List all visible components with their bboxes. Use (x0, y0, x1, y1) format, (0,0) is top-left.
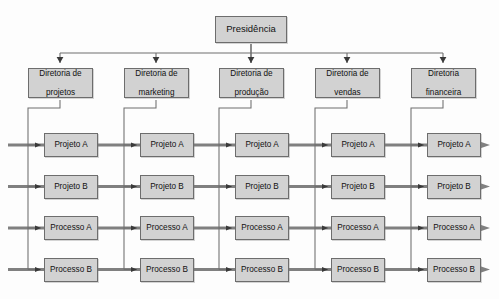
cell-label: Projeto B (52, 182, 90, 191)
cell-label: Processo A (144, 223, 189, 232)
node-diretoria-projetos[interactable]: Diretoria de projetos (28, 68, 93, 98)
cell-processo-b-col5[interactable]: Processo B (427, 258, 481, 282)
cell-label: Processo B (431, 265, 477, 274)
node-diretoria-producao[interactable]: Diretoria de produção (219, 68, 284, 98)
cell-label: Projeto B (435, 182, 473, 191)
line1: Diretoria de (133, 69, 179, 78)
cell-label: Processo B (335, 265, 381, 274)
line1: Diretoria de (228, 69, 274, 78)
cell-projeto-a-col2[interactable]: Projeto A (140, 133, 194, 157)
cell-projeto-a-col1[interactable]: Projeto A (44, 133, 98, 157)
cell-processo-a-col2[interactable]: Processo A (140, 216, 194, 240)
cell-processo-b-col2[interactable]: Processo B (140, 258, 194, 282)
process-flow-lines (8, 145, 470, 270)
cell-label: Processo A (239, 223, 284, 232)
flow-exit-arrowheads (468, 138, 490, 278)
cell-label: Projeto B (148, 182, 186, 191)
line2: projetos (37, 88, 83, 97)
cell-label: Processo B (239, 265, 285, 274)
line2: produção (228, 88, 274, 97)
node-diretoria-producao-label: Diretoria de produção (226, 69, 276, 97)
node-diretoria-marketing[interactable]: Diretoria de marketing (124, 68, 189, 98)
cell-processo-b-col1[interactable]: Processo B (44, 258, 98, 282)
cell-processo-a-col3[interactable]: Processo A (235, 216, 289, 240)
cell-projeto-a-col4[interactable]: Projeto A (331, 133, 385, 157)
bus-to-directorate-drops (60, 53, 443, 63)
node-diretoria-financeira[interactable]: Diretoria financeira (411, 68, 476, 98)
node-diretoria-projetos-label: Diretoria de projetos (35, 69, 85, 97)
node-presidencia[interactable]: Presidência (215, 16, 287, 43)
cell-label: Projeto A (339, 140, 376, 149)
cell-projeto-b-col4[interactable]: Projeto B (331, 175, 385, 199)
cell-label: Projeto A (52, 140, 89, 149)
node-diretoria-marketing-label: Diretoria de marketing (131, 69, 181, 97)
line1: Diretoria de (324, 69, 370, 78)
cell-label: Projeto A (243, 140, 280, 149)
cell-projeto-b-col5[interactable]: Projeto B (427, 175, 481, 199)
cell-label: Processo A (48, 223, 93, 232)
cell-label: Processo A (431, 223, 476, 232)
cell-label: Projeto B (243, 182, 281, 191)
node-diretoria-vendas[interactable]: Diretoria de vendas (315, 68, 380, 98)
line1: Diretoria de (37, 69, 83, 78)
cell-label: Processo A (335, 223, 380, 232)
cell-processo-a-col5[interactable]: Processo A (427, 216, 481, 240)
cell-projeto-a-col5[interactable]: Projeto A (427, 133, 481, 157)
cell-processo-a-col1[interactable]: Processo A (44, 216, 98, 240)
node-diretoria-vendas-label: Diretoria de vendas (322, 69, 372, 97)
cell-label: Projeto B (339, 182, 377, 191)
node-presidencia-label: Presidência (224, 24, 278, 35)
cell-label: Processo B (144, 265, 190, 274)
cell-label: Projeto A (148, 140, 185, 149)
node-diretoria-financeira-label: Diretoria financeira (422, 69, 466, 97)
cell-processo-b-col3[interactable]: Processo B (235, 258, 289, 282)
cell-processo-a-col4[interactable]: Processo A (331, 216, 385, 240)
cell-projeto-a-col3[interactable]: Projeto A (235, 133, 289, 157)
cell-label: Projeto A (435, 140, 472, 149)
cell-processo-b-col4[interactable]: Processo B (331, 258, 385, 282)
line2: financeira (424, 88, 464, 97)
cell-projeto-b-col3[interactable]: Projeto B (235, 175, 289, 199)
line1: Diretoria (424, 69, 464, 78)
line2: marketing (133, 88, 179, 97)
cell-label: Processo B (48, 265, 94, 274)
cell-projeto-b-col2[interactable]: Projeto B (140, 175, 194, 199)
cell-projeto-b-col1[interactable]: Projeto B (44, 175, 98, 199)
line2: vendas (324, 88, 370, 97)
org-chart-diagram: Presidência Diretoria de projetos Direto… (0, 0, 499, 299)
